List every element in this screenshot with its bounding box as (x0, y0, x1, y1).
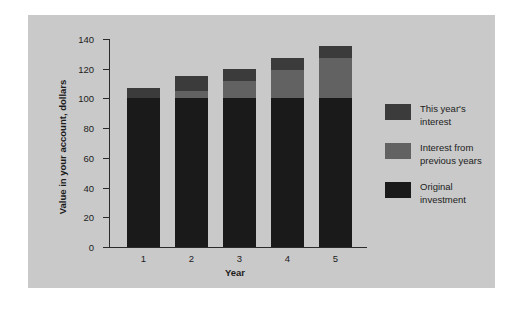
legend-label-this-years-interest: This year's interest (420, 103, 466, 128)
bar-year-1 (127, 88, 160, 247)
legend-label-line1: This year's (420, 103, 466, 116)
y-tick-0: 0 (103, 247, 109, 248)
y-tick-label-140: 140 (78, 34, 94, 45)
y-tick-label-80: 80 (83, 123, 94, 134)
y-tick-label-60: 60 (83, 152, 94, 163)
segment-original-investment (223, 98, 256, 247)
x-tick-label-1: 1 (127, 253, 160, 264)
x-tick-label-3: 3 (223, 253, 256, 264)
chart-panel: 0 20 40 60 80 100 120 140 (28, 15, 495, 288)
bar-year-3 (223, 69, 256, 247)
y-tick-40: 40 (103, 188, 109, 189)
segment-interest-previous-years (223, 81, 256, 99)
legend-label-line2: interest (420, 116, 466, 129)
segment-this-years-interest (175, 76, 208, 91)
legend-label-line1: Interest from (420, 142, 482, 155)
segment-original-investment (319, 98, 352, 247)
legend-item-original-investment: Original investment (385, 181, 517, 206)
legend-label-line2: previous years (420, 155, 482, 168)
bar-year-5 (319, 46, 352, 247)
legend-swatch-icon (385, 182, 411, 198)
legend-item-this-years-interest: This year's interest (385, 103, 517, 128)
y-tick-20: 20 (103, 217, 109, 218)
y-tick-label-20: 20 (83, 212, 94, 223)
segment-this-years-interest (127, 88, 160, 98)
segment-original-investment (127, 98, 160, 247)
legend-label-line1: Original (420, 181, 466, 194)
x-tick-label-5: 5 (319, 253, 352, 264)
segment-interest-previous-years (319, 58, 352, 98)
segment-interest-previous-years (175, 91, 208, 98)
x-axis-title: Year (225, 267, 245, 278)
legend-item-interest-previous-years: Interest from previous years (385, 142, 517, 167)
legend-swatch-icon (385, 143, 411, 159)
legend-swatch-icon (385, 104, 411, 120)
y-tick-100: 100 (103, 98, 109, 99)
plot-area: 0 20 40 60 80 100 120 140 (109, 39, 361, 247)
x-tick-label-2: 2 (175, 253, 208, 264)
segment-this-years-interest (223, 69, 256, 81)
legend-label-interest-previous-years: Interest from previous years (420, 142, 482, 167)
y-axis-line (109, 39, 110, 247)
y-tick-120: 120 (103, 69, 109, 70)
legend-label-original-investment: Original investment (420, 181, 466, 206)
bar-year-4 (271, 58, 304, 247)
y-tick-140: 140 (103, 39, 109, 40)
y-tick-60: 60 (103, 158, 109, 159)
legend-label-line2: investment (420, 194, 466, 207)
segment-original-investment (175, 98, 208, 247)
segment-interest-previous-years (271, 70, 304, 98)
segment-this-years-interest (319, 46, 352, 58)
y-tick-80: 80 (103, 128, 109, 129)
y-tick-label-120: 120 (78, 63, 94, 74)
bar-year-2 (175, 76, 208, 247)
x-axis-line (109, 247, 367, 248)
y-tick-label-40: 40 (83, 182, 94, 193)
chart-legend: This year's interest Interest from previ… (385, 103, 517, 220)
segment-this-years-interest (271, 58, 304, 70)
segment-original-investment (271, 98, 304, 247)
chart-figure: 0 20 40 60 80 100 120 140 (0, 0, 519, 310)
y-axis-title: Value in your account, dollars (57, 80, 68, 215)
x-tick-label-4: 4 (271, 253, 304, 264)
y-tick-label-0: 0 (89, 242, 94, 253)
y-tick-label-100: 100 (78, 93, 94, 104)
